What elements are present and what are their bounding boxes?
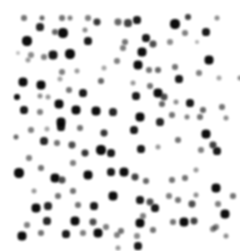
dot [36, 23, 44, 31]
dot [109, 192, 118, 201]
dot [92, 107, 101, 116]
dot [59, 69, 65, 75]
dot [166, 193, 172, 199]
dot [143, 178, 149, 184]
dot [101, 130, 108, 137]
dot [210, 226, 216, 232]
dot [72, 106, 81, 115]
dot [98, 78, 104, 84]
dot [182, 175, 188, 181]
dot [215, 16, 220, 21]
dot [75, 69, 80, 74]
dot [134, 61, 143, 70]
dot [142, 34, 150, 42]
dot [45, 127, 50, 132]
dot [202, 130, 211, 139]
dot [172, 64, 178, 70]
dot [194, 168, 199, 173]
dot [136, 219, 145, 228]
dot [22, 36, 32, 46]
dot [175, 75, 183, 83]
dot [134, 242, 142, 250]
dot [224, 234, 229, 239]
dot [221, 210, 230, 219]
dot [62, 230, 70, 238]
dot [115, 19, 122, 26]
dot [55, 193, 61, 199]
dot [107, 168, 115, 176]
dot [84, 171, 93, 180]
dot [40, 137, 48, 145]
dot [109, 108, 117, 116]
dot [43, 217, 51, 225]
dot [150, 227, 156, 233]
dot [57, 123, 65, 131]
dot [156, 118, 164, 126]
dot [16, 51, 20, 55]
dot-pattern-canvas [0, 0, 240, 251]
dot [116, 246, 121, 251]
dot [69, 142, 76, 149]
dot [46, 95, 51, 100]
dot [38, 94, 43, 99]
dot [169, 112, 175, 118]
dot [159, 101, 165, 107]
dot [59, 15, 65, 21]
dot [238, 76, 241, 81]
dot [26, 155, 32, 161]
dot [134, 233, 140, 239]
dot [83, 28, 88, 33]
dot [70, 160, 76, 166]
dot [84, 37, 92, 45]
dot [14, 135, 19, 140]
dot [196, 70, 202, 76]
dot [194, 193, 199, 198]
dot [215, 201, 221, 207]
dot [146, 67, 152, 73]
dot [124, 19, 132, 27]
dot [130, 126, 138, 134]
dot [180, 218, 189, 227]
dot [38, 230, 44, 236]
dot [40, 16, 45, 21]
dot [170, 219, 176, 225]
dot [120, 168, 129, 177]
dot [32, 189, 37, 194]
dot [219, 104, 225, 110]
dot [155, 67, 161, 73]
dot [71, 217, 80, 226]
dot [49, 51, 58, 60]
dot [202, 28, 210, 36]
dot [107, 149, 115, 157]
dot [82, 150, 89, 157]
dot [32, 204, 41, 213]
dot [85, 15, 91, 21]
dot [185, 115, 190, 120]
dot [114, 232, 120, 238]
dot [186, 99, 194, 107]
dot [151, 204, 159, 212]
dot [230, 193, 236, 199]
dot [102, 66, 107, 71]
dot [59, 177, 66, 184]
dot [169, 177, 175, 183]
dot [200, 107, 206, 113]
dot [94, 19, 101, 26]
dot [70, 188, 76, 194]
dot [217, 76, 222, 81]
dot [58, 28, 68, 38]
dot [197, 114, 203, 120]
dot [58, 77, 63, 82]
dot [175, 197, 181, 203]
dot [80, 230, 86, 236]
dot [174, 100, 179, 105]
dot [37, 81, 46, 90]
dot [41, 54, 47, 60]
dot [213, 147, 221, 155]
dot [120, 45, 126, 51]
dot [94, 229, 103, 238]
dot [114, 58, 120, 64]
dot [26, 58, 31, 63]
dot [44, 202, 52, 210]
dot [79, 89, 87, 97]
